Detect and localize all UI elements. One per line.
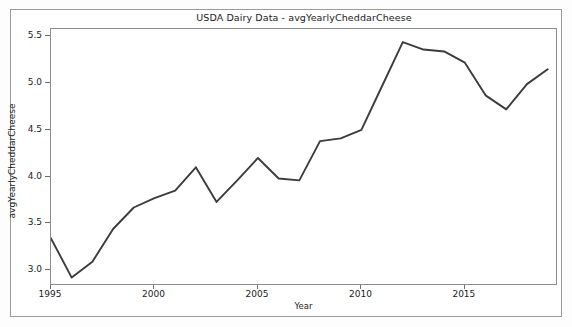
y-tick-label: 3.5 <box>2 217 42 227</box>
y-tick-label: 4.0 <box>2 171 42 181</box>
y-tick-mark <box>45 269 50 270</box>
chart-title: USDA Dairy Data - avgYearlyCheddarCheese <box>50 12 558 23</box>
x-tick-mark <box>360 285 361 289</box>
y-tick-label: 4.5 <box>2 124 42 134</box>
x-tick-label: 1995 <box>39 289 62 299</box>
x-tick-mark <box>464 285 465 289</box>
x-tick-label: 2000 <box>142 289 165 299</box>
plot-area <box>50 28 557 285</box>
x-tick-mark <box>153 285 154 289</box>
x-axis-title: Year <box>50 301 557 311</box>
data-series-line <box>51 42 548 278</box>
figure-canvas: USDA Dairy Data - avgYearlyCheddarCheese… <box>0 0 572 327</box>
x-tick-label: 2010 <box>349 289 372 299</box>
y-tick-mark <box>45 129 50 130</box>
x-tick-label: 2005 <box>245 289 268 299</box>
y-tick-label: 3.0 <box>2 264 42 274</box>
y-tick-mark <box>45 176 50 177</box>
y-tick-label: 5.0 <box>2 77 42 87</box>
x-tick-mark <box>50 285 51 289</box>
x-tick-mark <box>257 285 258 289</box>
y-tick-mark <box>45 35 50 36</box>
y-tick-mark <box>45 222 50 223</box>
line-chart-svg <box>51 29 558 286</box>
x-tick-label: 2015 <box>452 289 475 299</box>
y-tick-label: 5.5 <box>2 30 42 40</box>
y-tick-mark <box>45 82 50 83</box>
